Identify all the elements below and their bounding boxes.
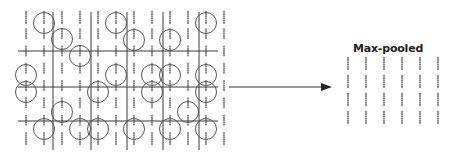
max-pooling-diagram	[0, 0, 454, 157]
output-feature-map	[347, 57, 439, 124]
arrow-icon	[229, 83, 332, 91]
